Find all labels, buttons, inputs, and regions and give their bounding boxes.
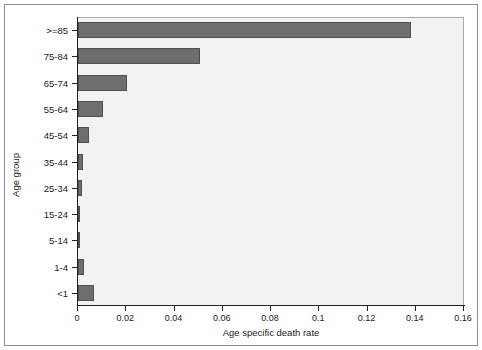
- y-tick: [72, 135, 77, 136]
- y-axis-line: [77, 17, 78, 306]
- bar-row: [78, 127, 464, 143]
- bar-row: [78, 75, 464, 91]
- x-tick: [415, 306, 416, 311]
- bar: [78, 206, 80, 222]
- bar: [78, 285, 94, 301]
- y-axis-title: Age group: [10, 0, 34, 350]
- bar: [78, 22, 411, 38]
- bar-row: [78, 48, 464, 64]
- y-tick: [72, 188, 77, 189]
- y-tick: [72, 56, 77, 57]
- y-tick-label: 35-44: [44, 156, 68, 167]
- y-tick-label: 15-24: [44, 209, 68, 220]
- bar: [78, 75, 127, 91]
- x-tick: [318, 306, 319, 311]
- x-tick: [174, 306, 175, 311]
- bar-row: [78, 259, 464, 275]
- bar-series: [78, 17, 464, 306]
- x-axis-line: [77, 305, 465, 306]
- y-tick-label: 5-14: [49, 235, 68, 246]
- y-tick: [72, 240, 77, 241]
- bar-row: [78, 180, 464, 196]
- x-tick: [463, 306, 464, 311]
- y-tick: [72, 293, 77, 294]
- x-tick: [222, 306, 223, 311]
- x-tick-label: 0.02: [116, 313, 134, 323]
- bar: [78, 127, 89, 143]
- y-tick: [72, 83, 77, 84]
- x-tick-label: 0.16: [454, 313, 472, 323]
- x-tick-label: 0.06: [213, 313, 231, 323]
- y-tick-label: 45-54: [44, 130, 68, 141]
- y-tick: [72, 109, 77, 110]
- x-tick: [125, 306, 126, 311]
- bar-row: [78, 285, 464, 301]
- bar-row: [78, 22, 464, 38]
- bar: [78, 232, 80, 248]
- bar: [78, 259, 84, 275]
- x-tick-label: 0.1: [312, 313, 325, 323]
- y-tick-label: 25-34: [44, 182, 68, 193]
- y-tick: [72, 30, 77, 31]
- y-tick-label: 1-4: [54, 261, 68, 272]
- bar: [78, 154, 83, 170]
- y-tick-label: 65-74: [44, 77, 68, 88]
- y-tick-label: >=85: [46, 25, 68, 36]
- y-tick-label: <1: [57, 287, 68, 298]
- x-tick: [367, 306, 368, 311]
- bar-row: [78, 154, 464, 170]
- y-tick-label: 75-84: [44, 51, 68, 62]
- x-tick-label: 0.12: [358, 313, 376, 323]
- y-tick-label: 55-64: [44, 103, 68, 114]
- y-tick: [72, 162, 77, 163]
- bar-row: [78, 101, 464, 117]
- x-tick-label: 0: [74, 313, 79, 323]
- bar-row: [78, 232, 464, 248]
- x-axis-title: Age specific death rate: [77, 327, 465, 338]
- y-tick: [72, 267, 77, 268]
- y-tick: [72, 214, 77, 215]
- chart-figure: 00.020.040.060.080.10.120.140.16 >=8575-…: [0, 0, 482, 350]
- bar: [78, 48, 200, 64]
- x-tick: [270, 306, 271, 311]
- x-tick: [77, 306, 78, 311]
- x-tick-label: 0.08: [261, 313, 279, 323]
- x-tick-label: 0.14: [406, 313, 424, 323]
- bar: [78, 180, 82, 196]
- bar: [78, 101, 103, 117]
- bar-row: [78, 206, 464, 222]
- x-tick-label: 0.04: [165, 313, 183, 323]
